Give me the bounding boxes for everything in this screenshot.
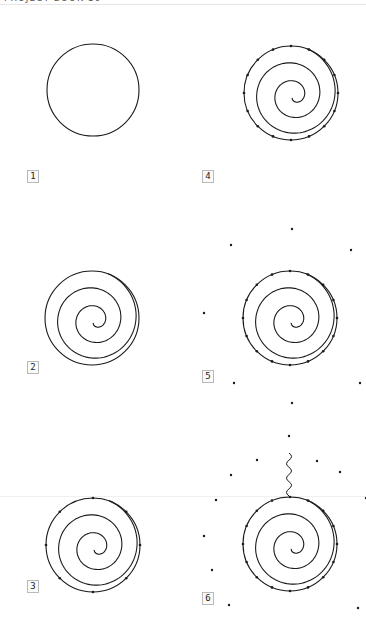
- tick-dot-4-7: [308, 135, 311, 138]
- tick-dot-5-10: [255, 350, 258, 353]
- outer-dot-2: [350, 249, 352, 251]
- tick-dot-5-2: [322, 284, 325, 287]
- tick-dot-6-10: [255, 576, 258, 579]
- tick-dot-6-0: [289, 496, 292, 499]
- step-label-5: 5: [202, 370, 214, 383]
- tick-dot-4-3: [333, 74, 336, 77]
- step-label-1: 1: [27, 170, 39, 183]
- tick-dot-3-4: [92, 591, 95, 594]
- tick-dot-5-8: [289, 364, 292, 367]
- outer-dot-12: [215, 499, 217, 501]
- spiral-4: [257, 49, 336, 133]
- spiral-5: [256, 274, 335, 358]
- tick-dot-4-4: [337, 92, 340, 95]
- outer-dot-14: [203, 535, 205, 537]
- tick-dot-5-0: [289, 270, 292, 273]
- tick-dot-6-15: [271, 499, 274, 502]
- outer-dot-7: [288, 435, 290, 437]
- tick-dot-4-8: [290, 139, 293, 142]
- tick-dot-4-11: [246, 110, 249, 113]
- tick-dot-6-1: [307, 499, 310, 502]
- outer-dot-15: [211, 569, 213, 571]
- tick-dot-6-8: [289, 590, 292, 593]
- tick-dot-4-5: [333, 110, 336, 113]
- step-label-6: 6: [202, 592, 214, 605]
- tick-dot-6-3: [332, 525, 335, 528]
- outer-dot-8: [256, 459, 258, 461]
- outer-circle-2: [45, 271, 139, 365]
- spiral-2: [58, 274, 137, 358]
- tick-dot-4-6: [323, 125, 326, 128]
- tick-dot-4-12: [243, 92, 246, 95]
- tick-dot-4-13: [246, 74, 249, 77]
- tick-dot-4-0: [290, 45, 293, 48]
- outer-dot-4: [233, 382, 235, 384]
- tick-dot-5-15: [271, 273, 274, 276]
- tick-dot-6-12: [242, 543, 245, 546]
- tick-dot-6-5: [332, 561, 335, 564]
- outer-dot-11: [339, 471, 341, 473]
- outer-dot-10: [230, 474, 232, 476]
- outer-dot-0: [230, 244, 232, 246]
- tick-dot-5-4: [336, 317, 339, 320]
- outer-dot-16: [228, 604, 230, 606]
- tick-dot-6-6: [322, 576, 325, 579]
- tick-dot-6-7: [307, 586, 310, 589]
- tick-dot-5-9: [271, 360, 274, 363]
- tick-dot-6-14: [255, 510, 258, 513]
- tick-dot-6-11: [245, 561, 248, 564]
- tick-dot-3-5: [59, 577, 62, 580]
- step-label-3: 3: [27, 580, 39, 593]
- tick-dot-3-3: [125, 577, 128, 580]
- tick-dot-4-14: [257, 59, 260, 62]
- tick-dot-5-3: [332, 299, 335, 302]
- tick-dot-6-2: [322, 510, 325, 513]
- spiral-3: [59, 501, 138, 585]
- outer-dot-9: [316, 460, 318, 462]
- tick-dot-4-10: [257, 125, 260, 128]
- outer-circle-1: [47, 44, 139, 136]
- tick-dot-5-12: [242, 317, 245, 320]
- tick-dot-4-1: [308, 48, 311, 51]
- wavy-stem: [287, 453, 292, 496]
- tick-dot-5-7: [307, 360, 310, 363]
- tick-dot-4-15: [272, 48, 275, 51]
- tick-dot-3-2: [139, 544, 142, 547]
- step-drawings: [0, 0, 366, 617]
- tick-dot-3-6: [45, 544, 48, 547]
- tick-dot-6-4: [336, 543, 339, 546]
- tick-dot-5-11: [245, 335, 248, 338]
- tick-dot-4-2: [323, 59, 326, 62]
- tick-dot-6-13: [245, 525, 248, 528]
- tick-dot-5-14: [255, 284, 258, 287]
- spiral-6: [256, 500, 335, 584]
- tick-dot-6-9: [271, 586, 274, 589]
- outer-dot-3: [203, 312, 205, 314]
- outer-dot-6: [291, 402, 293, 404]
- outer-dot-17: [357, 607, 359, 609]
- tick-dot-3-1: [125, 511, 128, 514]
- outer-dot-1: [291, 228, 293, 230]
- illustration-page: PROJECT BOOK 10 1 2 3 4 5 6: [0, 0, 366, 617]
- outer-dot-5: [359, 382, 361, 384]
- tick-dot-5-5: [332, 335, 335, 338]
- tick-dot-5-6: [322, 350, 325, 353]
- tick-dot-5-1: [307, 273, 310, 276]
- step-label-2: 2: [27, 361, 39, 374]
- tick-dot-4-9: [272, 135, 275, 138]
- tick-dot-5-13: [245, 299, 248, 302]
- tick-dot-3-0: [92, 497, 95, 500]
- tick-dot-3-7: [59, 511, 62, 514]
- step-label-4: 4: [202, 170, 214, 183]
